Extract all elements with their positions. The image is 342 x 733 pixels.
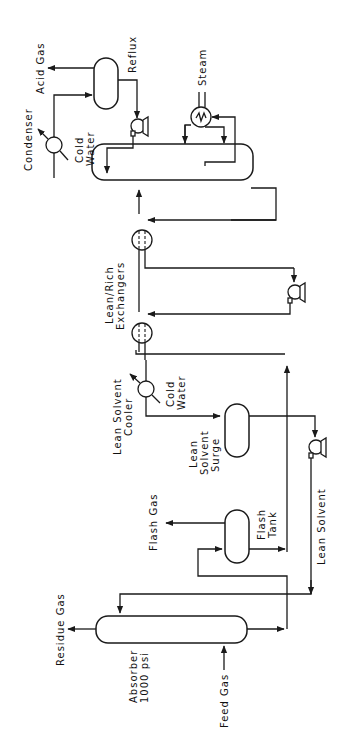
process-flow-diagram: Acid Gas Reflux Condenser Cold Water Ste… bbox=[0, 0, 342, 733]
lean-solvent-surge-drum bbox=[225, 404, 249, 457]
reflux-drum bbox=[94, 58, 118, 109]
label-flash-gas: Flash Gas bbox=[148, 494, 159, 551]
label-absorber-2: 1000 psi bbox=[139, 652, 150, 703]
label-surge-3: Surge bbox=[210, 438, 221, 472]
label-steam: Steam bbox=[197, 49, 208, 86]
label-cold-water-2: Water bbox=[85, 131, 96, 166]
label-acid-gas: Acid Gas bbox=[35, 42, 46, 94]
label-residue-gas: Residue Gas bbox=[55, 593, 66, 666]
label-flash-tank-1: Flash bbox=[256, 509, 267, 540]
label-flash-tank-2: Tank bbox=[267, 511, 278, 539]
label-cold-water-1: Cold bbox=[74, 137, 85, 163]
reflux-pump-icon bbox=[131, 117, 148, 136]
absorber-column bbox=[96, 616, 247, 643]
label-cooler-cold-2: Water bbox=[176, 375, 187, 410]
label-lean-rich-2: Exchangers bbox=[115, 262, 126, 330]
lean-pump-icon bbox=[288, 268, 305, 303]
label-lean-rich-1: Lean/Rich bbox=[104, 266, 115, 324]
label-absorber-1: Absorber bbox=[128, 650, 139, 703]
reflux-line bbox=[118, 80, 137, 118]
lean-rich-exchanger-1 bbox=[132, 230, 152, 250]
label-lean-solvent: Lean Solvent bbox=[316, 488, 327, 565]
lean-rich-exchanger-2 bbox=[132, 323, 152, 343]
label-cooler-cold-1: Cold bbox=[165, 381, 176, 407]
lean-solvent-cooler bbox=[130, 374, 160, 403]
condenser bbox=[38, 129, 68, 160]
label-lean-solvent-cooler-2: Cooler bbox=[123, 398, 134, 436]
label-surge-2: Solvent bbox=[199, 430, 210, 475]
reboiler bbox=[191, 92, 211, 127]
label-condenser: Condenser bbox=[23, 108, 34, 171]
label-feed-gas: Feed Gas bbox=[219, 674, 230, 728]
label-surge-1: Lean bbox=[188, 440, 199, 468]
flash-tank bbox=[225, 510, 249, 563]
label-lean-solvent-cooler-1: Lean Solvent bbox=[112, 378, 123, 455]
lean-solvent-to-absorber bbox=[120, 594, 282, 613]
label-reflux: Reflux bbox=[127, 36, 138, 73]
lean-solvent-pump-icon bbox=[309, 438, 326, 458]
